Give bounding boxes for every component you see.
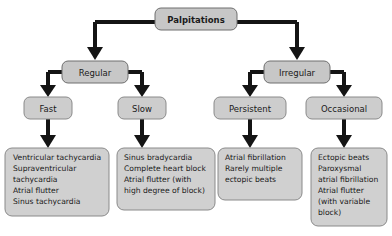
leaf-line: Sinus tachycardia	[13, 197, 80, 206]
node-persistent-label: Persistent	[229, 104, 272, 114]
arrowhead-persistent-leaf	[242, 135, 258, 148]
arrowhead-slow-leaf	[134, 135, 150, 148]
node-palpitations[interactable]: Palpitations	[155, 8, 237, 30]
arrowhead-occasional	[336, 85, 352, 97]
leaf-line: Ventricular tachycardia	[13, 153, 101, 162]
leaf-occasional-causes[interactable]: Ectopic beats Paroxysmal atrial fibrilla…	[311, 148, 387, 226]
node-regular-label: Regular	[79, 68, 112, 78]
leaf-line: Atrial flutter (with	[124, 175, 191, 184]
flowchart-palpitations: Palpitations Regular Irregular Fast Slow…	[0, 0, 392, 236]
node-fast-label: Fast	[39, 104, 57, 114]
leaf-line: Rarely multiple	[225, 164, 283, 173]
arrowhead-fast-leaf	[40, 135, 56, 148]
leaf-line: block)	[318, 208, 341, 217]
node-slow-label: Slow	[132, 104, 152, 114]
node-fast[interactable]: Fast	[24, 97, 72, 119]
leaf-line: Paroxysmal	[318, 164, 361, 173]
leaf-line: Ectopic beats	[318, 153, 369, 162]
arrowhead-occasional-leaf	[336, 135, 352, 148]
arrowhead-persistent	[242, 85, 258, 97]
arrowhead-fast	[40, 85, 56, 97]
leaf-fast-causes[interactable]: Ventricular tachycardia Supraventricular…	[5, 148, 109, 216]
leaf-line: Sinus bradycardia	[124, 153, 192, 162]
leaf-line: Supraventricular	[13, 164, 77, 173]
leaf-line: Atrial fibrillation	[225, 153, 286, 162]
node-occasional-label: Occasional	[321, 104, 367, 114]
node-irregular-label: Irregular	[279, 68, 316, 78]
leaf-line: Atrial flutter	[318, 186, 365, 195]
node-slow[interactable]: Slow	[118, 97, 166, 119]
arrowhead-irregular	[289, 47, 305, 60]
leaf-line: atrial fibrillation	[318, 175, 378, 184]
node-palpitations-label: Palpitations	[167, 15, 224, 25]
node-persistent[interactable]: Persistent	[214, 97, 286, 119]
leaf-persistent-causes[interactable]: Atrial fibrillation Rarely multiple ecto…	[218, 148, 302, 200]
arrowhead-regular	[87, 47, 103, 60]
leaf-line: (with variable	[318, 197, 370, 206]
node-irregular[interactable]: Irregular	[264, 61, 330, 83]
arrowhead-slow	[134, 85, 150, 97]
leaf-line: tachycardia	[13, 175, 58, 184]
leaf-line: ectopic beats	[225, 175, 276, 184]
node-regular[interactable]: Regular	[62, 61, 128, 83]
leaf-slow-causes[interactable]: Sinus bradycardia Complete heart block A…	[117, 148, 215, 210]
leaf-line: Complete heart block	[124, 164, 206, 173]
leaf-line: Atrial flutter	[13, 186, 60, 195]
connector-level3-to-leaves	[40, 119, 352, 148]
node-occasional[interactable]: Occasional	[306, 97, 382, 119]
leaf-line: high degree of block)	[124, 186, 205, 195]
